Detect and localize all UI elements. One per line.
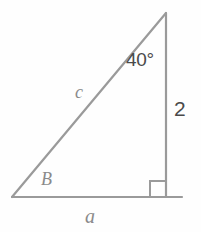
side-label-base: a bbox=[85, 206, 95, 226]
triangle-drawing bbox=[0, 0, 201, 232]
side-label-hypotenuse: c bbox=[75, 83, 83, 101]
hypotenuse-line bbox=[12, 13, 166, 197]
angle-label-bottom-left: B bbox=[41, 170, 52, 188]
right-angle-marker-icon bbox=[150, 181, 166, 197]
triangle-figure: 40° 2 c B a bbox=[0, 0, 201, 232]
angle-label-top: 40° bbox=[126, 50, 154, 69]
side-label-vertical: 2 bbox=[174, 98, 186, 119]
